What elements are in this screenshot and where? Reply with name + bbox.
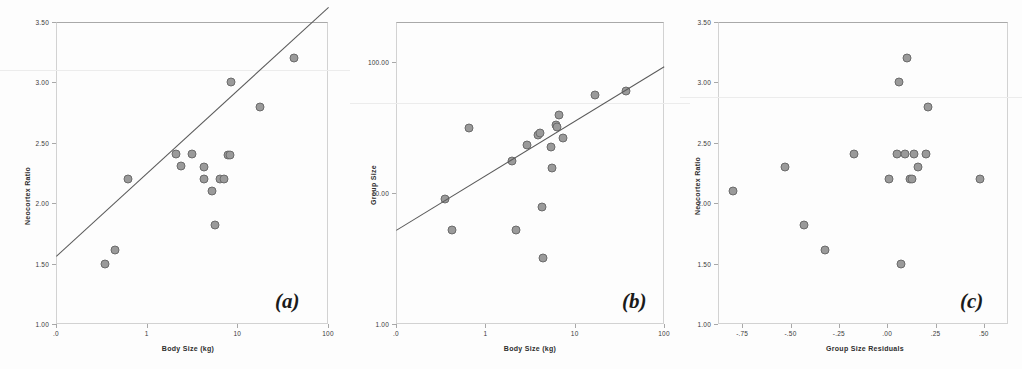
y-tick-label: 2.50 bbox=[680, 139, 711, 146]
y-tick bbox=[52, 22, 56, 23]
data-point bbox=[780, 162, 789, 171]
y-tick bbox=[52, 324, 56, 325]
y-tick bbox=[714, 324, 718, 325]
data-point bbox=[289, 54, 298, 63]
data-point bbox=[554, 111, 563, 120]
scan-artifact bbox=[680, 97, 1022, 98]
y-axis-title-b: Group Size bbox=[370, 165, 377, 205]
x-tick bbox=[485, 324, 486, 328]
data-point bbox=[921, 149, 930, 158]
x-tick-label: 100 bbox=[322, 330, 333, 337]
y-tick-label: 3.50 bbox=[680, 19, 711, 26]
data-point bbox=[210, 220, 219, 229]
data-point bbox=[177, 161, 186, 170]
y-tick-label: 1.00 bbox=[350, 321, 389, 328]
x-tick-label: .50 bbox=[979, 330, 989, 337]
data-point bbox=[885, 175, 894, 184]
data-point bbox=[227, 78, 236, 87]
panel-label-b: (b) bbox=[622, 289, 647, 314]
scan-artifact bbox=[0, 70, 350, 71]
y-tick bbox=[52, 203, 56, 204]
plot-frame-a bbox=[56, 22, 328, 324]
data-point bbox=[538, 253, 547, 262]
x-axis-title-c: Group Size Residuals bbox=[826, 345, 904, 352]
data-point bbox=[728, 187, 737, 196]
data-point bbox=[123, 175, 132, 184]
panel-b: .01101001.0010.00100.00 Body Size (kg) G… bbox=[350, 0, 690, 369]
x-tick-label: .00 bbox=[882, 330, 892, 337]
x-tick bbox=[664, 324, 665, 328]
y-tick bbox=[52, 264, 56, 265]
data-point bbox=[894, 78, 903, 87]
plot-frame-c bbox=[718, 22, 1008, 324]
x-tick-label: .25 bbox=[931, 330, 941, 337]
y-tick-label: 1.50 bbox=[680, 260, 711, 267]
data-point bbox=[511, 226, 520, 235]
y-tick-label: 2.50 bbox=[0, 139, 49, 146]
data-point bbox=[111, 246, 120, 255]
x-axis-title-b: Body Size (kg) bbox=[504, 345, 556, 352]
x-axis-title-a: Body Size (kg) bbox=[162, 345, 214, 352]
x-tick bbox=[237, 324, 238, 328]
plot-frame-b bbox=[396, 22, 664, 324]
y-tick-label: 1.00 bbox=[680, 321, 711, 328]
y-tick bbox=[392, 62, 396, 63]
data-point bbox=[902, 54, 911, 63]
data-point bbox=[914, 162, 923, 171]
x-tick bbox=[328, 324, 329, 328]
x-tick bbox=[984, 324, 985, 328]
y-tick bbox=[52, 82, 56, 83]
x-tick bbox=[56, 324, 57, 328]
x-tick-label: 1 bbox=[483, 330, 487, 337]
panel-a: .01101001.001.502.002.503.003.50 Body Si… bbox=[0, 0, 350, 369]
x-tick bbox=[791, 324, 792, 328]
x-tick bbox=[887, 324, 888, 328]
x-tick-label: -.50 bbox=[784, 330, 796, 337]
x-tick-label: -.25 bbox=[833, 330, 845, 337]
data-point bbox=[910, 149, 919, 158]
scan-artifact bbox=[350, 103, 690, 104]
y-tick bbox=[392, 324, 396, 325]
y-tick-label: 3.00 bbox=[680, 79, 711, 86]
y-tick bbox=[714, 82, 718, 83]
x-tick bbox=[396, 324, 397, 328]
data-point bbox=[188, 149, 197, 158]
data-point bbox=[219, 175, 228, 184]
data-point bbox=[558, 134, 567, 143]
data-point bbox=[821, 246, 830, 255]
y-tick-label: 100.00 bbox=[350, 58, 389, 65]
data-point bbox=[800, 220, 809, 229]
data-point bbox=[101, 259, 110, 268]
y-tick bbox=[714, 22, 718, 23]
y-tick bbox=[714, 143, 718, 144]
x-tick bbox=[147, 324, 148, 328]
x-tick bbox=[742, 324, 743, 328]
y-tick bbox=[52, 143, 56, 144]
x-tick bbox=[575, 324, 576, 328]
y-tick-label: 1.00 bbox=[0, 321, 49, 328]
panel-label-a: (a) bbox=[275, 289, 300, 314]
data-point bbox=[226, 150, 235, 159]
y-tick-label: 1.50 bbox=[0, 260, 49, 267]
data-point bbox=[975, 175, 984, 184]
data-point bbox=[536, 129, 545, 138]
data-point bbox=[207, 187, 216, 196]
panel-c: -.75-.50-.25.00.25.501.001.502.002.503.0… bbox=[680, 0, 1022, 369]
y-tick-label: 3.50 bbox=[0, 19, 49, 26]
data-point bbox=[900, 149, 909, 158]
data-point bbox=[591, 90, 600, 99]
x-tick-label: 100 bbox=[658, 330, 669, 337]
y-axis-title-c: Neocortex Ratio bbox=[694, 157, 701, 215]
data-point bbox=[548, 163, 557, 172]
y-tick-label: 3.00 bbox=[0, 79, 49, 86]
data-point bbox=[896, 259, 905, 268]
data-point bbox=[923, 102, 932, 111]
x-tick-label: -.75 bbox=[736, 330, 748, 337]
x-tick-label: 1 bbox=[145, 330, 149, 337]
data-point bbox=[546, 142, 555, 151]
y-tick bbox=[714, 203, 718, 204]
y-tick bbox=[714, 264, 718, 265]
data-point bbox=[256, 102, 265, 111]
data-point bbox=[465, 124, 474, 133]
data-point bbox=[447, 226, 456, 235]
